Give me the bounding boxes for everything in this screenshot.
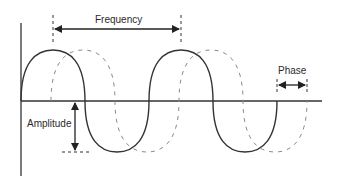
frequency-label: Frequency: [95, 15, 142, 25]
phase-label: Phase: [278, 66, 306, 76]
wave-diagram: [0, 0, 338, 184]
amplitude-label: Amplitude: [27, 119, 71, 129]
